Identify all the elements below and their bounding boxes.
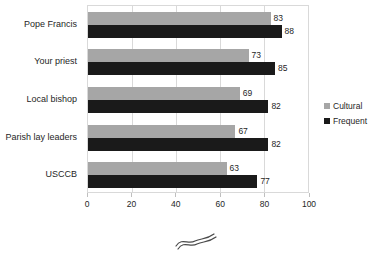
bar-frequent bbox=[88, 100, 268, 113]
bar-frequent bbox=[88, 175, 257, 188]
legend-marker-icon bbox=[324, 103, 330, 109]
bar-value-label: 63 bbox=[230, 162, 239, 175]
category-label: Your priest bbox=[0, 43, 82, 81]
bar-group: 6982 bbox=[88, 81, 308, 119]
bar-value-label: 82 bbox=[271, 100, 280, 113]
bar-cultural bbox=[88, 125, 235, 138]
x-tick-mark bbox=[220, 193, 221, 197]
legend-label: Cultural bbox=[333, 101, 362, 111]
legend-item: Frequent bbox=[324, 116, 367, 126]
legend-label: Frequent bbox=[333, 116, 367, 126]
bar-value-label: 69 bbox=[243, 87, 252, 100]
legend: CulturalFrequent bbox=[324, 101, 367, 131]
x-tick-mark bbox=[87, 193, 88, 197]
category-axis: Pope FrancisYour priestLocal bishopParis… bbox=[0, 5, 82, 193]
x-tick-mark bbox=[131, 193, 132, 197]
bar-frequent bbox=[88, 62, 275, 75]
bar-cultural bbox=[88, 87, 240, 100]
bar-cultural bbox=[88, 12, 271, 25]
bar-value-label: 85 bbox=[278, 62, 287, 75]
x-tick-mark bbox=[264, 193, 265, 197]
bar-chart: 83887385698267826377 Pope FrancisYour pr… bbox=[0, 0, 384, 260]
bar-value-label: 88 bbox=[285, 25, 294, 38]
bar-cultural bbox=[88, 162, 227, 175]
bar-frequent bbox=[88, 138, 268, 151]
axis-break-icon bbox=[172, 231, 218, 253]
x-axis: 020406080100 bbox=[87, 193, 309, 211]
bar-value-label: 77 bbox=[260, 175, 269, 188]
x-tick-mark bbox=[175, 193, 176, 197]
bar-group: 8388 bbox=[88, 6, 308, 44]
plot-area: 83887385698267826377 bbox=[87, 5, 309, 193]
bar-group: 6782 bbox=[88, 119, 308, 157]
x-tick-mark bbox=[309, 193, 310, 197]
bar-frequent bbox=[88, 25, 282, 38]
category-label: Pope Francis bbox=[0, 5, 82, 43]
category-label: USCCB bbox=[0, 155, 82, 193]
x-tick-label: 40 bbox=[171, 199, 180, 209]
bar-value-label: 83 bbox=[274, 12, 283, 25]
bar-value-label: 73 bbox=[252, 49, 261, 62]
legend-marker-icon bbox=[324, 118, 330, 124]
bar-group: 6377 bbox=[88, 156, 308, 194]
category-label: Parish lay leaders bbox=[0, 118, 82, 156]
x-tick-label: 0 bbox=[85, 199, 90, 209]
bar-group: 7385 bbox=[88, 44, 308, 82]
x-tick-label: 20 bbox=[127, 199, 136, 209]
bar-cultural bbox=[88, 49, 249, 62]
legend-item: Cultural bbox=[324, 101, 367, 111]
x-tick-label: 60 bbox=[215, 199, 224, 209]
category-label: Local bishop bbox=[0, 80, 82, 118]
bar-value-label: 67 bbox=[238, 125, 247, 138]
bar-value-label: 82 bbox=[271, 138, 280, 151]
x-tick-label: 80 bbox=[260, 199, 269, 209]
x-tick-label: 100 bbox=[302, 199, 316, 209]
